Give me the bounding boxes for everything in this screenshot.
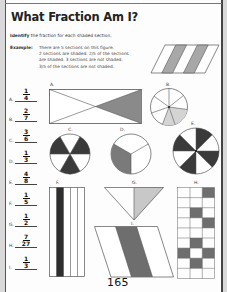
shape-c xyxy=(49,133,91,175)
shape-f xyxy=(49,187,85,277)
answer-i: I. 13 xyxy=(9,251,43,271)
example-label: Example: xyxy=(10,45,33,50)
answer-letter: B. xyxy=(9,117,14,122)
shape-d xyxy=(110,133,152,175)
shape-a-label: A. xyxy=(50,82,54,87)
answer-letter: I. xyxy=(9,265,12,270)
shape-f-label: F. xyxy=(56,180,59,185)
top-border xyxy=(5,3,222,4)
example-line: 3/5 of the sections are not shaded. xyxy=(39,64,151,70)
answer-b: B. 27 xyxy=(9,103,43,123)
answer-fraction: 727 xyxy=(21,234,31,247)
numerator: 7 xyxy=(24,234,28,240)
shape-g xyxy=(104,187,164,221)
denominator: 6 xyxy=(24,136,28,142)
answer-d: D. 13 xyxy=(9,145,43,165)
instructions: Identify the fraction for each shaded se… xyxy=(10,33,112,38)
shape-a xyxy=(49,89,142,124)
numerator: 4 xyxy=(24,171,28,177)
answer-letter: A. xyxy=(9,97,13,102)
answer-letter: D. xyxy=(9,159,14,164)
numerator: 3 xyxy=(24,129,28,135)
shape-h-label: H. xyxy=(194,180,199,185)
shape-b-label: B. xyxy=(166,82,171,87)
answer-g: G. 12 xyxy=(9,208,43,228)
denominator: 4 xyxy=(24,95,28,101)
answer-fraction: 14 xyxy=(21,88,31,101)
shape-g-label: G. xyxy=(132,180,137,185)
example-text: There are 5 sections on this figure. 2 s… xyxy=(39,45,151,70)
shape-i xyxy=(94,226,174,278)
answer-letter: F. xyxy=(9,201,12,206)
answer-letter: H. xyxy=(9,243,14,248)
shape-e-label: E. xyxy=(191,121,195,126)
answer-e: E. 48 xyxy=(9,166,43,186)
answer-line xyxy=(15,121,37,122)
answer-line xyxy=(15,101,37,102)
answer-line xyxy=(15,226,37,227)
instruction-text: the fraction for each shaded section. xyxy=(29,33,111,38)
answer-letter: E. xyxy=(9,180,13,185)
page-number: 165 xyxy=(107,276,129,289)
answer-line xyxy=(15,184,37,185)
answer-h: H. 727 xyxy=(9,229,43,249)
shape-h xyxy=(177,187,217,279)
numerator: 1 xyxy=(24,256,28,262)
example-figure xyxy=(150,44,220,74)
answer-fraction: 13 xyxy=(21,150,31,163)
answer-line xyxy=(15,205,37,206)
answer-f: F. 15 xyxy=(9,187,43,207)
denominator: 27 xyxy=(22,241,30,247)
answer-line xyxy=(15,269,37,270)
answer-fraction: 27 xyxy=(21,108,31,121)
answer-c: C. 36 xyxy=(9,124,43,144)
denominator: 3 xyxy=(24,157,28,163)
denominator: 8 xyxy=(24,178,28,184)
numerator: 1 xyxy=(24,213,28,219)
numerator: 2 xyxy=(24,108,28,114)
shape-e xyxy=(172,127,220,175)
numerator: 1 xyxy=(24,150,28,156)
answer-line xyxy=(15,247,37,248)
answer-fraction: 48 xyxy=(21,171,31,184)
answer-letter: G. xyxy=(9,222,14,227)
answer-fraction: 13 xyxy=(21,256,31,269)
answer-letter: C. xyxy=(9,138,14,143)
shape-b xyxy=(150,88,188,126)
answer-line xyxy=(15,163,37,164)
answer-fraction: 36 xyxy=(21,129,31,142)
answer-a: A. 14 xyxy=(9,83,43,103)
instruction-bold: Identify xyxy=(10,33,29,38)
answer-line xyxy=(15,142,37,143)
denominator: 2 xyxy=(24,220,28,226)
worksheet-title: What Fraction Am I? xyxy=(11,10,138,24)
answer-fraction: 12 xyxy=(21,213,31,226)
shape-d-label: D. xyxy=(120,127,125,132)
denominator: 7 xyxy=(24,115,28,121)
numerator: 1 xyxy=(24,192,28,198)
answer-fraction: 15 xyxy=(21,192,31,205)
denominator: 3 xyxy=(24,263,28,269)
shape-c-label: C. xyxy=(68,127,73,132)
numerator: 1 xyxy=(24,88,28,94)
denominator: 5 xyxy=(24,199,28,205)
